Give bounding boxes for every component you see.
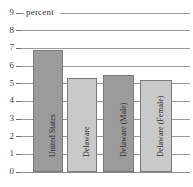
y-tick-mark-7 [16,48,21,49]
y-tick-label-5: 5 [2,79,14,88]
bar-label-container: Delaware (Female) [141,81,171,171]
y-tick-mark-6 [16,66,21,67]
y-tick-label-1: 1 [2,149,14,158]
bar: United States [33,50,63,172]
y-tick-label-8: 8 [2,26,14,35]
bar-label-container: Delaware (Male) [104,76,133,171]
bar: Delaware (Female) [140,80,172,172]
bar-label: Delaware (Male) [119,103,128,157]
bar: Delaware (Male) [103,75,134,172]
y-tick-mark-4 [16,101,21,102]
y-tick-mark-3 [16,119,21,120]
y-tick-mark-9 [16,13,21,14]
gridline-8 [21,30,190,31]
y-tick-label-2: 2 [2,132,14,141]
y-tick-label-3: 3 [2,114,14,123]
y-tick-mark-0 [16,172,21,173]
y-tick-label-7: 7 [2,43,14,52]
bar-label: United States [48,114,57,157]
gridline-7 [21,48,190,49]
y-tick-mark-2 [16,136,21,137]
bar-label-container: Delaware [68,79,96,171]
gridline-0 [21,172,190,173]
bar: Delaware [67,78,97,172]
y-tick-label-6: 6 [2,61,14,70]
y-tick-label-0: 0 [2,167,14,176]
y-tick-mark-8 [16,30,21,31]
plot-area: 9876543210percentUnited StatesDelawareDe… [0,0,193,187]
bar-chart: 9876543210percentUnited StatesDelawareDe… [0,0,193,187]
bar-label: Delaware (Female) [156,95,165,157]
bar-label: Delaware [82,126,91,157]
y-tick-label-4: 4 [2,96,14,105]
y-axis-unit-label: percent [26,8,54,17]
y-tick-label-9: 9 [2,8,14,17]
bar-label-container: United States [34,51,62,171]
y-tick-mark-1 [16,154,21,155]
y-tick-mark-5 [16,83,21,84]
